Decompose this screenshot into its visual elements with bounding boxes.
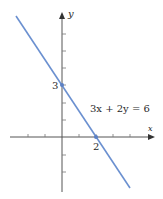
y-ticks	[62, 34, 66, 172]
x-axis-arrow-icon	[148, 134, 155, 140]
x-axis-label: x	[148, 124, 153, 133]
y-intercept-label: 3	[52, 80, 58, 91]
y-intercept-point	[60, 83, 64, 87]
y-axis-arrow-icon	[59, 12, 65, 19]
x-intercept-point	[94, 135, 98, 139]
y-axis-label: y	[67, 8, 74, 19]
equation-label: 3x + 2y = 6	[90, 103, 150, 114]
graph: y x 3 2 3x + 2y = 6	[0, 0, 163, 199]
equation-line	[16, 16, 130, 188]
x-intercept-label: 2	[93, 141, 99, 152]
